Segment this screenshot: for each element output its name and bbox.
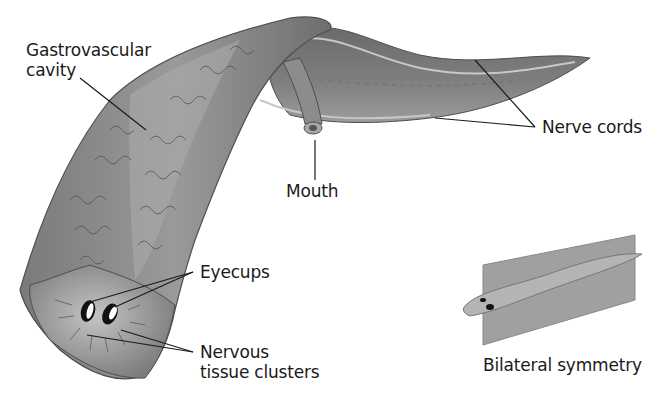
label-bilateral-symmetry: Bilateral symmetry	[483, 355, 642, 375]
label-gastrovascular-cavity: Gastrovascular cavity	[26, 40, 151, 80]
label-mouth: Mouth	[286, 181, 338, 201]
bilateral-symmetry-inset	[463, 235, 642, 345]
label-nerve-cords: Nerve cords	[542, 117, 642, 137]
label-nervous-tissue-clusters: Nervous tissue clusters	[200, 342, 319, 382]
flatworm-diagram: Gastrovascular cavity Mouth Nerve cords …	[0, 0, 670, 414]
label-eyecups: Eyecups	[200, 262, 270, 282]
